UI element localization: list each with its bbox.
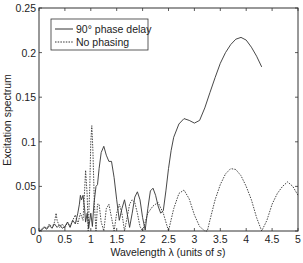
x-tick-label: 2 [140, 233, 146, 245]
x-tick-label: 3 [191, 233, 197, 245]
x-tick-label: 1.5 [109, 233, 124, 245]
legend-item-no-phasing: No phasing [76, 36, 129, 48]
x-tick-label: 3.5 [213, 233, 228, 245]
x-tick-label: 2.5 [161, 233, 176, 245]
x-tick-label: 1 [88, 233, 94, 245]
x-tick-label: 4 [243, 233, 249, 245]
x-tick-label: 0.5 [58, 233, 73, 245]
y-tick-label: 0.1 [21, 136, 36, 148]
x-axis-label: Wavelength λ (units of s) [110, 246, 225, 258]
legend-item-phase-delay: 90° phase delay [76, 23, 152, 35]
excitation-spectrum-chart: 00.511.522.533.544.55 00.050.10.150.20.2… [0, 0, 303, 263]
legend: 90° phase delay No phasing [51, 19, 152, 50]
y-tick-label: 0.25 [16, 2, 37, 14]
y-tick-label: 0.05 [16, 180, 37, 192]
x-tick-label: 4.5 [265, 233, 280, 245]
x-tick-label: 5 [295, 233, 301, 245]
y-tick-label: 0.15 [16, 91, 37, 103]
y-tick-label: 0.2 [21, 47, 36, 59]
y-axis-label: Excitation spectrum [1, 74, 13, 166]
y-tick-label: 0 [30, 225, 36, 237]
x-tick-label: 0 [36, 233, 42, 245]
